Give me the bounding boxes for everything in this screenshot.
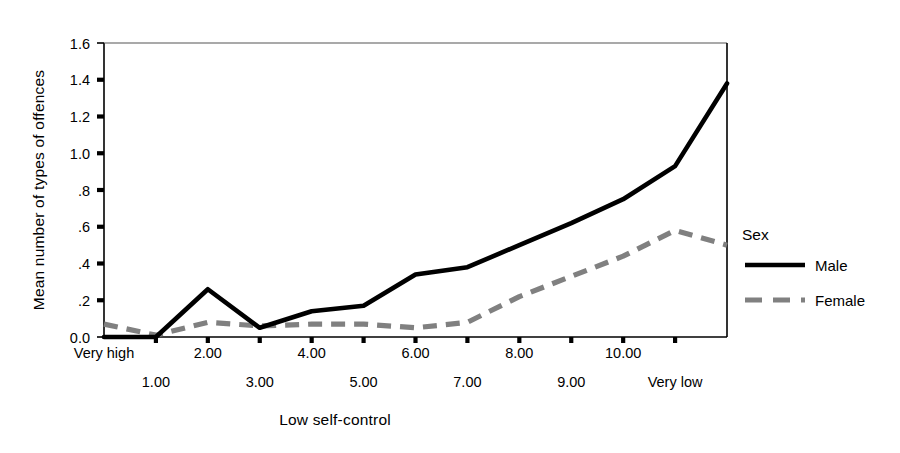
legend-label-male: Male [815,257,848,274]
x-tick-label: 3.00 [246,374,274,390]
x-tick-label: 1.00 [142,374,170,390]
x-tick-label: 4.00 [298,345,326,361]
x-tick-label: 5.00 [349,374,377,390]
x-tick-label: 10.00 [605,345,641,361]
y-tick-label: .8 [78,183,90,199]
x-tick-label: 8.00 [505,345,533,361]
x-tick-label: 9.00 [557,374,585,390]
legend-title: Sex [742,226,769,243]
chart-figure: 1.61.41.21.0.8.6.4.20.0 Very high2.004.0… [0,0,900,453]
x-tick-label: 2.00 [194,345,222,361]
y-tick-label: .2 [78,293,90,309]
y-tick-label: 1.2 [70,109,90,125]
y-tick-label: .6 [78,219,90,235]
y-tick-label: 1.6 [70,36,90,52]
y-tick-label: .4 [78,256,90,272]
x-tick-label: 7.00 [453,374,481,390]
y-axis-title: Mean number of types of offences [30,70,47,311]
y-tick-label: 0.0 [70,330,90,346]
x-tick-label: 6.00 [401,345,429,361]
x-tick-label: Very high [74,345,134,361]
x-tick-label: Very low [648,374,703,390]
line-chart: 1.61.41.21.0.8.6.4.20.0 Very high2.004.0… [0,0,900,453]
legend-label-female: Female [815,292,865,309]
y-tick-label: 1.4 [70,72,90,88]
y-tick-label: 1.0 [70,146,90,162]
x-axis-title: Low self-control [279,411,391,428]
